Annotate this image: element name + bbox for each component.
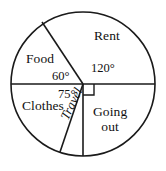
slice-label-clothes: Clothes [22,99,64,112]
slice-label-going-out-line1: Going [93,104,127,119]
pie-chart-graphic [0,0,166,171]
slice-angle-food: 60° [52,70,70,82]
slice-label-food: Food [26,52,54,65]
slice-label-rent: Rent [94,29,120,42]
slice-angle-rent: 120° [91,62,115,74]
slice-label-going-out: Going out [93,104,127,134]
pie-chart-figure: Rent 120° Food 60° 75° Clothes Travel Go… [0,0,166,171]
slice-label-going-out-line2: out [93,119,127,134]
